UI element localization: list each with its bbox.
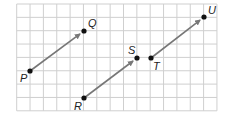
vector-RS	[84, 61, 133, 98]
point-R	[81, 95, 86, 100]
point-label-R: R	[74, 100, 82, 112]
point-label-U: U	[208, 4, 216, 16]
point-label-P: P	[20, 72, 28, 84]
point-label-S: S	[128, 44, 136, 56]
point-P	[27, 68, 32, 73]
point-label-T: T	[153, 60, 161, 72]
graph-grid	[17, 4, 217, 111]
point-Q	[81, 28, 86, 33]
vector-grid-diagram: PQRSTU	[0, 0, 231, 122]
points: PQRSTU	[20, 4, 216, 112]
point-label-Q: Q	[88, 17, 97, 29]
vectors	[30, 20, 200, 98]
point-S	[134, 55, 139, 60]
vector-TU	[151, 20, 200, 58]
point-U	[201, 14, 206, 19]
vector-PQ	[30, 34, 80, 71]
